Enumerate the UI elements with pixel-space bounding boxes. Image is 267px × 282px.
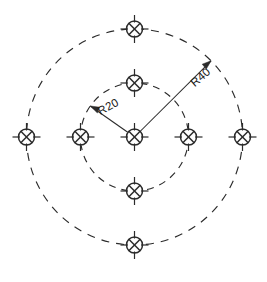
outer-radius-dimension: R40 [135, 61, 213, 137]
crossed-circle-hole-symbol [121, 15, 149, 43]
crossed-circle-hole-symbol [121, 177, 149, 205]
crossed-circle-hole-symbol [175, 123, 203, 151]
bolt-circle-drawing: R20 R40 [0, 0, 267, 282]
technical-drawing-canvas: R20 R40 [0, 0, 267, 282]
inner-radius-label: R20 [96, 96, 121, 117]
inner-radius-dimension: R20 [90, 96, 134, 137]
dimension-leaders-group: R20 R40 [90, 61, 212, 137]
crossed-circle-hole-symbol [229, 123, 257, 151]
crossed-circle-hole-symbol [67, 123, 95, 151]
crossed-circle-hole-symbol [121, 231, 149, 259]
hole-symbols-group [13, 15, 257, 259]
outer-radius-label: R40 [188, 65, 212, 88]
crossed-circle-hole-symbol [13, 123, 41, 151]
crossed-circle-hole-symbol [121, 69, 149, 97]
